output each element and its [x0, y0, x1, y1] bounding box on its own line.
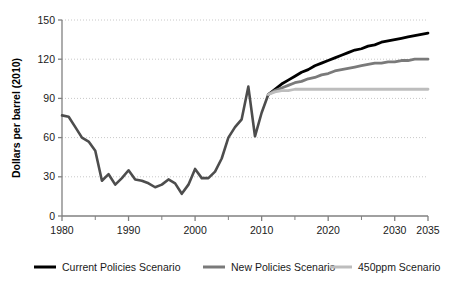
chart-page: 1980199020002010202020302035 03060901201…: [0, 0, 450, 282]
x-tick-label-2020: 2020: [317, 224, 341, 236]
x-tick-label-2000: 2000: [183, 224, 207, 236]
y-axis-title: Dollars per barrel (2010): [10, 58, 22, 178]
x-tick-label-1990: 1990: [117, 224, 141, 236]
x-tick-label-2035: 2035: [416, 224, 440, 236]
x-tick-label-1980: 1980: [50, 224, 74, 236]
legend-label-1: New Policies Scenario: [231, 261, 336, 273]
y-tick-label-90: 90: [43, 92, 55, 104]
y-tick-label-0: 0: [49, 210, 55, 222]
chart-legend: Current Policies ScenarioNew Policies Sc…: [34, 261, 440, 273]
y-tick-label-60: 60: [43, 131, 55, 143]
oil-price-line-chart: 1980199020002010202020302035 03060901201…: [0, 0, 450, 282]
y-tick-label-30: 30: [43, 170, 55, 182]
y-tick-label-120: 120: [37, 53, 55, 65]
legend-label-2: 450ppm Scenario: [358, 261, 440, 273]
x-tick-label-2030: 2030: [383, 224, 407, 236]
legend-label-0: Current Policies Scenario: [62, 261, 181, 273]
y-tick-label-150: 150: [37, 14, 55, 26]
x-tick-label-2010: 2010: [250, 224, 274, 236]
